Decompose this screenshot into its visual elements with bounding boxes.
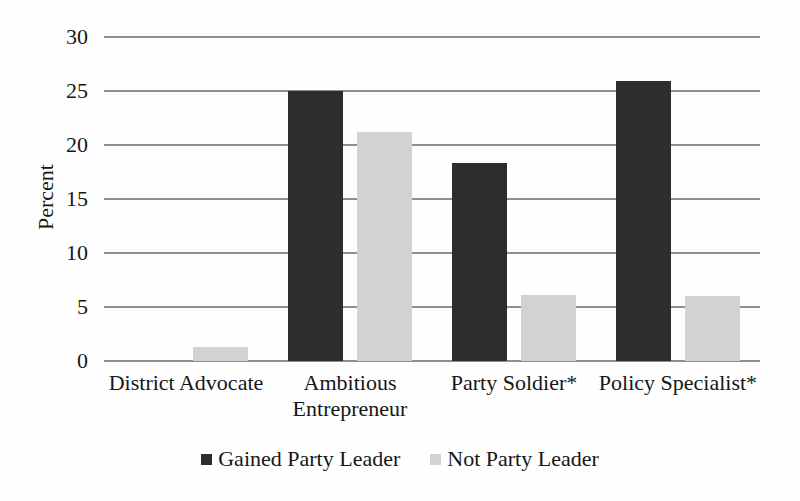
bar-not-party-leader [193,347,248,361]
y-tick-label: 0 [0,347,88,375]
y-tick-label: 30 [0,23,88,51]
legend-label: Not Party Leader [447,445,599,473]
y-tick-label: 20 [0,131,88,159]
bars-layer [104,37,760,361]
category-label: Policy Specialist* [596,370,760,422]
y-tick-label: 10 [0,239,88,267]
y-tick-label: 25 [0,77,88,105]
legend-label: Gained Party Leader [218,445,400,473]
plot-area [104,37,760,361]
category-label: District Advocate [104,370,268,422]
y-tick-label: 5 [0,293,88,321]
bar-group-policy-specialist- [596,37,760,361]
x-axis-category-labels: District AdvocateAmbitious EntrepreneurP… [104,370,760,422]
legend-swatch [201,454,212,465]
bar-gained-party-leader [616,81,671,361]
y-tick-label: 15 [0,185,88,213]
bar-group-district-advocate [104,37,268,361]
bar-not-party-leader [685,296,740,361]
category-label: Ambitious Entrepreneur [268,370,432,422]
bar-group-party-soldier- [432,37,596,361]
legend-item: Gained Party Leader [201,445,400,473]
legend-swatch [430,454,441,465]
bar-not-party-leader [357,132,412,361]
legend-item: Not Party Leader [430,445,599,473]
bar-chart-figure: Percent 051015202530 District AdvocateAm… [0,0,800,501]
bar-group-ambitious-entrepreneur [268,37,432,361]
bar-not-party-leader [521,295,576,361]
bar-gained-party-leader [452,163,507,361]
y-axis-tick-labels: 051015202530 [0,37,88,361]
category-label: Party Soldier* [432,370,596,422]
legend: Gained Party LeaderNot Party Leader [0,445,800,473]
bar-gained-party-leader [288,91,343,361]
